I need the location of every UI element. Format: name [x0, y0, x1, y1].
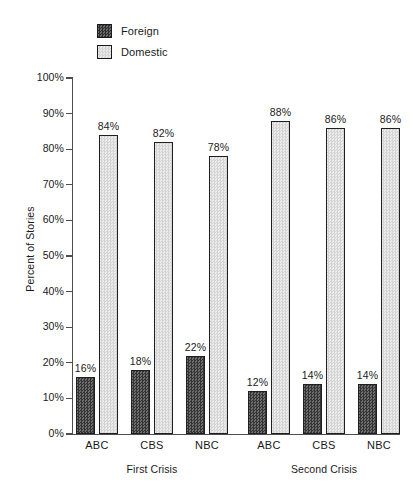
- y-axis-tick: [66, 77, 73, 78]
- bar-foreign-3: [248, 391, 267, 434]
- bar-domestic-1: [154, 142, 173, 434]
- bar-value-label-foreign-5: 14%: [350, 369, 385, 381]
- bar-value-label-domestic-0: 84%: [91, 120, 126, 132]
- y-axis-tick-label: 10%: [43, 391, 64, 403]
- bar-value-label-domestic-5: 86%: [373, 113, 408, 125]
- bar-value-label-foreign-3: 12%: [240, 376, 275, 388]
- bar-domestic-5: [381, 128, 400, 434]
- bar-domestic-4: [326, 128, 345, 434]
- bar-domestic-3: [271, 121, 290, 434]
- y-axis-tick: [66, 113, 73, 114]
- y-axis-tick-label: 70%: [43, 178, 64, 190]
- bar-foreign-1: [131, 370, 150, 434]
- y-axis-tick: [66, 327, 73, 328]
- y-axis-tick-label: 80%: [43, 142, 64, 154]
- x-axis-line: [72, 434, 400, 435]
- y-axis-tick: [66, 184, 73, 185]
- y-axis-tick-label: 90%: [43, 107, 64, 119]
- y-axis-tick-label: 100%: [37, 71, 64, 83]
- y-axis-tick-label: 20%: [43, 356, 64, 368]
- y-axis-tick: [66, 433, 73, 434]
- y-axis-tick-label: 50%: [43, 249, 64, 261]
- y-axis-tick-label: 60%: [43, 213, 64, 225]
- bar-value-label-foreign-0: 16%: [68, 362, 103, 374]
- y-axis-tick-label: 0%: [49, 427, 64, 439]
- bar-value-label-foreign-2: 22%: [178, 341, 213, 353]
- y-axis-tick: [66, 220, 73, 221]
- y-axis-tick: [66, 291, 73, 292]
- group-label-1: Second Crisis: [274, 463, 374, 475]
- y-axis-tick: [66, 149, 73, 150]
- bar-chart: Foreign Domestic 100%90%80%70%60%50%40%3…: [0, 0, 413, 503]
- bar-value-label-foreign-4: 14%: [295, 369, 330, 381]
- y-axis-tick-label: 40%: [43, 285, 64, 297]
- y-axis-title: Percent of Stories: [24, 189, 36, 309]
- group-label-0: First Crisis: [102, 463, 202, 475]
- plot-area: 100%90%80%70%60%50%40%30%20%10%0% Percen…: [0, 0, 413, 503]
- bar-domestic-2: [209, 156, 228, 434]
- bar-value-label-foreign-1: 18%: [123, 355, 158, 367]
- bar-foreign-4: [303, 384, 322, 434]
- y-axis-tick: [66, 255, 73, 256]
- bar-value-label-domestic-1: 82%: [146, 127, 181, 139]
- y-axis-tick-label: 30%: [43, 320, 64, 332]
- bar-foreign-5: [358, 384, 377, 434]
- bar-domestic-0: [99, 135, 118, 434]
- bar-value-label-domestic-3: 88%: [263, 106, 298, 118]
- bar-value-label-domestic-4: 86%: [318, 113, 353, 125]
- y-axis-tick: [66, 398, 73, 399]
- bar-foreign-0: [76, 377, 95, 434]
- bar-foreign-2: [186, 356, 205, 434]
- bar-value-label-domestic-2: 78%: [201, 141, 236, 153]
- x-axis-category-label: NBC: [343, 439, 413, 451]
